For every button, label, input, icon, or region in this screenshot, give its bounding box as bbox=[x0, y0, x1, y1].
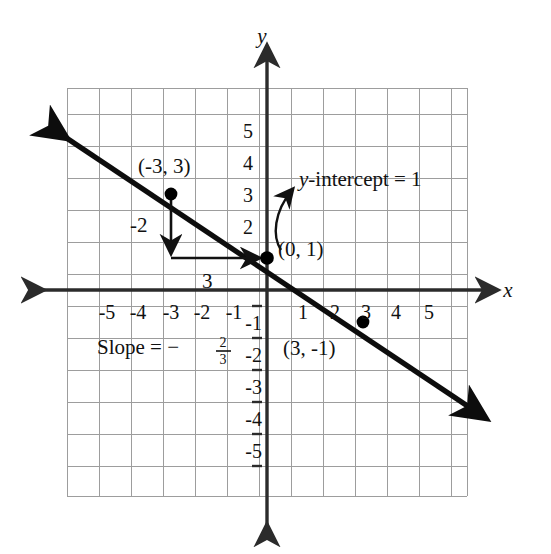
y-tick-label-4: 4 bbox=[243, 152, 253, 174]
point-marker-minus3-3 bbox=[165, 188, 178, 201]
x-tick-label-4: 4 bbox=[391, 301, 401, 323]
y-tick-label--3: -3 bbox=[245, 376, 262, 398]
point-label-3-minus1: (3, -1) bbox=[283, 336, 335, 360]
y-intercept-annotation-variable: y bbox=[297, 167, 309, 191]
x-axis-label: x bbox=[502, 278, 513, 302]
rise-label: -2 bbox=[130, 213, 148, 237]
x-tick-label--2: -2 bbox=[194, 301, 211, 323]
y-tick-label--4: -4 bbox=[245, 408, 262, 430]
graph-figure: y x -5 -4 -3 -2 -1 1 2 3 4 5 5 4 3 2 -1 … bbox=[0, 0, 551, 554]
x-tick-label--1: -1 bbox=[226, 301, 243, 323]
run-label: 3 bbox=[202, 269, 213, 293]
coordinate-plane-svg: y x -5 -4 -3 -2 -1 1 2 3 4 5 5 4 3 2 -1 … bbox=[0, 0, 551, 554]
y-axis-label: y bbox=[255, 24, 267, 48]
slope-denominator: 3 bbox=[220, 352, 227, 367]
x-tick-label-3: 3 bbox=[361, 301, 371, 323]
point-label-0-1: (0, 1) bbox=[278, 237, 324, 261]
x-tick-labels-negative: -5 -4 -3 -2 -1 bbox=[99, 301, 243, 323]
slope-annotation-text: Slope = − bbox=[97, 335, 179, 359]
y-tick-label-5: 5 bbox=[243, 120, 253, 142]
y-tick-label--1: -1 bbox=[245, 312, 262, 334]
y-tick-label-2: 2 bbox=[243, 216, 253, 238]
slope-annotation: Slope = − 2 3 bbox=[97, 335, 231, 367]
x-tick-label-5: 5 bbox=[424, 301, 434, 323]
y-intercept-annotation: y-intercept = 1 bbox=[297, 167, 422, 191]
x-tick-label-2: 2 bbox=[330, 301, 340, 323]
x-tick-label--3: -3 bbox=[163, 301, 180, 323]
y-intercept-annotation-rest: -intercept = 1 bbox=[308, 167, 421, 191]
point-label-minus3-3: (-3, 3) bbox=[138, 154, 190, 178]
x-tick-label--5: -5 bbox=[99, 301, 116, 323]
point-marker-0-1 bbox=[260, 251, 274, 265]
x-tick-label--4: -4 bbox=[130, 301, 147, 323]
y-tick-label--5: -5 bbox=[245, 440, 262, 462]
y-tick-label--2: -2 bbox=[245, 344, 262, 366]
y-tick-labels-positive: 5 4 3 2 bbox=[243, 120, 253, 238]
slope-numerator: 2 bbox=[220, 335, 227, 350]
x-tick-label-1: 1 bbox=[298, 301, 308, 323]
y-tick-label-3: 3 bbox=[243, 184, 253, 206]
